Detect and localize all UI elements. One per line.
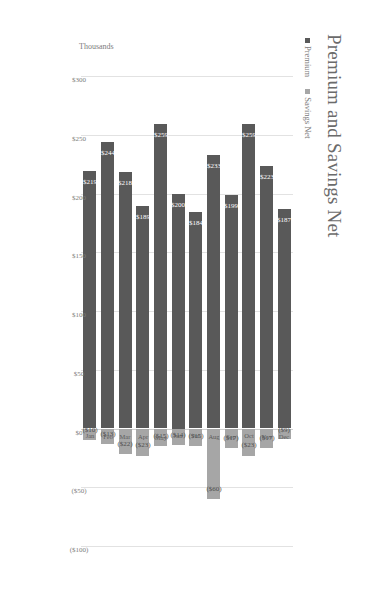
- category-label: Aug: [208, 434, 219, 441]
- bar-value-label-premium: $184: [189, 220, 203, 227]
- bar-value-label-savings-net: ($22): [118, 441, 133, 448]
- category-label: Mar: [120, 434, 131, 441]
- chart-legend: PremiumSavings Net: [303, 38, 313, 139]
- axis-title: Thousands: [79, 42, 114, 51]
- bar-segment-premium[interactable]: $184: [189, 212, 202, 428]
- bar-segment-premium[interactable]: $244: [101, 142, 114, 429]
- axis-tick-label: $50: [74, 370, 85, 378]
- plot-area: $187($9)Dec$223($17)Nov$259($23)Oct$199(…: [81, 76, 293, 546]
- bar-value-label-premium: $259: [154, 132, 168, 139]
- category-label: May: [155, 434, 167, 441]
- screenshot-stage: Premium and Savings Net PremiumSavings N…: [0, 0, 376, 596]
- bar-value-label-savings-net: ($23): [241, 442, 256, 449]
- bar-value-label-premium: $219: [83, 179, 97, 186]
- bar-segment-premium[interactable]: $259: [242, 124, 255, 428]
- legend-item-premium[interactable]: Premium: [303, 38, 313, 77]
- bar-row[interactable]: $223($17)Nov: [260, 76, 273, 546]
- category-label: Nov: [261, 434, 272, 441]
- category-label: Apr: [138, 433, 148, 440]
- axis-tick-label: ($100): [70, 546, 89, 554]
- bar-value-label-premium: $200: [171, 201, 185, 208]
- bar-segment-premium[interactable]: $200: [172, 194, 185, 429]
- bar-segment-premium[interactable]: $218: [119, 172, 132, 428]
- bar-row[interactable]: $259($23)Oct: [242, 76, 255, 546]
- bar-segment-premium[interactable]: $223: [260, 166, 273, 428]
- bar-row[interactable]: $244($13)Feb: [101, 76, 114, 546]
- bar-segment-premium[interactable]: $189: [136, 206, 149, 428]
- legend-swatch-icon: [306, 89, 311, 94]
- bar-value-label-premium: $189: [136, 214, 150, 221]
- bar-row[interactable]: $218($22)Mar: [119, 76, 132, 546]
- bar-value-label-premium: $199: [224, 202, 238, 209]
- legend-item-savings-net[interactable]: Savings Net: [303, 89, 313, 138]
- category-label: Jan: [86, 433, 95, 440]
- bar-value-label-savings-net: ($23): [135, 442, 150, 449]
- legend-label: Premium: [303, 46, 313, 77]
- axis-tick-label: $150: [72, 252, 86, 260]
- category-label: Jul: [192, 432, 200, 439]
- category-label: Feb: [103, 433, 113, 440]
- bar-value-label-premium: $218: [118, 180, 132, 187]
- bar-series-group: $187($9)Dec$223($17)Nov$259($23)Oct$199(…: [81, 76, 293, 546]
- axis-tick-label: $200: [72, 194, 86, 202]
- bar-value-label-savings-net: ($60): [206, 486, 221, 493]
- axis-tick-label: $100: [72, 311, 86, 319]
- legend-swatch-icon: [306, 38, 311, 43]
- bar-segment-premium[interactable]: $187: [278, 209, 291, 429]
- bar-value-label-premium: $187: [277, 216, 291, 223]
- bar-value-label-premium: $259: [242, 132, 256, 139]
- chart-title: Premium and Savings Net: [323, 34, 345, 238]
- axis-tick-label: $250: [72, 135, 86, 143]
- axis-tick-label: ($50): [71, 487, 86, 495]
- rotated-chart-wrapper: Premium and Savings Net PremiumSavings N…: [23, 20, 353, 576]
- bar-row[interactable]: $189($23)Apr: [136, 76, 149, 546]
- axis-tick-label: $300: [72, 76, 86, 84]
- legend-label: Savings Net: [303, 97, 313, 138]
- bar-segment-premium[interactable]: $219: [83, 171, 96, 428]
- axis-tick-label: $0: [76, 429, 83, 437]
- bar-segment-premium[interactable]: $199: [225, 195, 238, 429]
- bar-row[interactable]: $187($9)Dec: [278, 76, 291, 546]
- bar-value-label-premium: $223: [260, 174, 274, 181]
- bar-row[interactable]: $200($14)Jun: [172, 76, 185, 546]
- category-label: Dec: [279, 433, 289, 440]
- bar-row[interactable]: $199($17)Sep: [225, 76, 238, 546]
- bar-row[interactable]: $259($15)May: [154, 76, 167, 546]
- bar-segment-premium[interactable]: $259: [154, 124, 167, 428]
- category-label: Jun: [174, 433, 183, 440]
- bar-value-label-premium: $244: [101, 149, 115, 156]
- bar-row[interactable]: $233($60)Aug: [207, 76, 220, 546]
- bar-segment-premium[interactable]: $233: [207, 155, 220, 429]
- value-axis: $300$250$200$150$100$50$0($50)($100): [49, 76, 79, 546]
- bar-row[interactable]: $184($15)Jul: [189, 76, 202, 546]
- chart-canvas: Premium and Savings Net PremiumSavings N…: [23, 20, 353, 576]
- category-label: Sep: [226, 433, 236, 440]
- bar-value-label-premium: $233: [207, 162, 221, 169]
- category-label: Oct: [244, 433, 253, 440]
- gridline: [81, 546, 293, 547]
